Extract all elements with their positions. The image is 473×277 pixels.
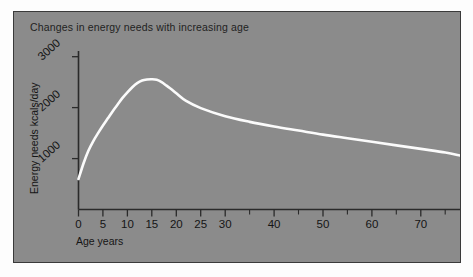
- y-axis-title: Energy needs kcals/day: [28, 82, 40, 194]
- x-tick-label-0: 0: [75, 218, 81, 230]
- y-axis-ticks: [72, 57, 79, 159]
- x-tick-label-15: 15: [145, 218, 158, 230]
- x-tick-label-10: 10: [121, 218, 134, 230]
- x-tick-label-60: 60: [366, 218, 379, 230]
- x-tick-label-70: 70: [414, 218, 427, 230]
- x-tick-label-5: 5: [100, 218, 106, 230]
- x-tick-label-20: 20: [170, 218, 183, 230]
- x-tick-label-40: 40: [268, 218, 281, 230]
- plot-area: 3000 2000 1000 Energy needs kcals/day: [14, 12, 461, 263]
- x-tick-label-30: 30: [219, 218, 232, 230]
- figure-canvas: Changes in energy needs with increasing …: [0, 0, 473, 277]
- chart-panel: Changes in energy needs with increasing …: [13, 11, 461, 263]
- x-tick-label-25: 25: [194, 218, 207, 230]
- axis-lines: [79, 51, 461, 210]
- energy-needs-curve: [79, 79, 461, 179]
- y-tick-label-3000: 3000: [35, 36, 62, 62]
- x-axis-tick-labels: 0 5 10 15 20 25 30 40 50 60 70: [75, 218, 427, 230]
- x-axis-title: Age years: [76, 235, 123, 247]
- x-tick-label-50: 50: [317, 218, 330, 230]
